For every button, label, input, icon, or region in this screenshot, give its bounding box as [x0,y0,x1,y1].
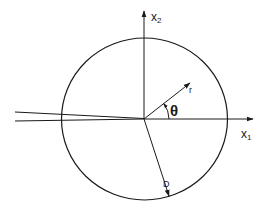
crack-upper-face [15,112,144,119]
diagram-canvas [0,0,263,210]
x1-axis-label: x1 [241,128,251,142]
r-label: r [189,86,192,95]
crack-lower-face [15,119,144,121]
x2-label-sub: 2 [157,16,161,25]
r-vector [144,83,190,119]
theta-label: θ [170,103,178,118]
x2-axis-label: x2 [151,11,161,25]
theta-arc [164,104,169,119]
D-label: D [163,180,170,189]
x1-label-sub: 1 [247,133,251,142]
